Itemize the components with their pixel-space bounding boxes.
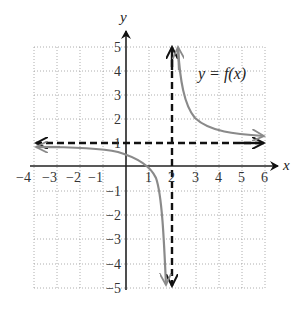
y-axis-label: y (118, 9, 127, 25)
svg-text:5: 5 (238, 170, 245, 185)
chart-canvas: y x y = f(x) −4 −3 −2 −1 1 2 3 4 5 6 5 4… (0, 0, 299, 313)
svg-text:−5: −5 (106, 281, 121, 296)
curve-right-arrow-tip (178, 47, 179, 70)
svg-text:−1: −1 (88, 170, 103, 185)
svg-text:5: 5 (114, 40, 121, 55)
svg-text:−2: −2 (66, 170, 81, 185)
svg-text:1: 1 (145, 170, 152, 185)
function-label: y = f(x) (196, 65, 246, 83)
svg-text:−3: −3 (106, 232, 121, 247)
y-tick-labels-positive: 5 4 3 2 1 (114, 40, 121, 151)
svg-text:4: 4 (114, 64, 121, 79)
y-tick-labels-negative: −1 −2 −3 −4 −5 (106, 184, 121, 296)
svg-text:3: 3 (114, 88, 121, 103)
x-axis-label: x (282, 157, 290, 173)
svg-text:1: 1 (114, 136, 121, 151)
svg-text:2: 2 (114, 112, 121, 127)
svg-text:−1: −1 (106, 184, 121, 199)
svg-text:2: 2 (168, 170, 175, 185)
svg-text:−3: −3 (42, 170, 57, 185)
svg-text:−2: −2 (106, 208, 121, 223)
svg-text:−4: −4 (106, 257, 121, 272)
svg-text:6: 6 (261, 170, 268, 185)
svg-text:3: 3 (192, 170, 199, 185)
svg-text:4: 4 (215, 170, 222, 185)
curve-right-branch (178, 48, 264, 136)
x-tick-labels: −4 −3 −2 −1 1 2 3 4 5 6 (16, 170, 268, 185)
svg-text:−4: −4 (16, 170, 31, 185)
